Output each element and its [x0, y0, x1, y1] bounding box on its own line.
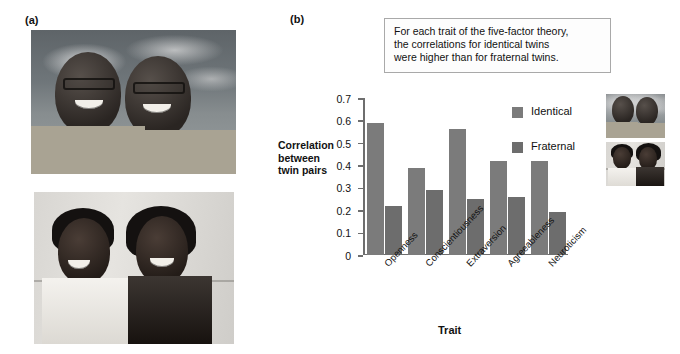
legend-thumbnail-identical [606, 94, 665, 138]
y-tick-4: 0.4 [358, 165, 363, 167]
x-axis-title: Trait [438, 324, 461, 336]
y-tick-label-7: 0.7 [336, 93, 351, 105]
y-tick-3: 0.3 [358, 188, 363, 190]
thumb-identical-head-b [636, 97, 658, 125]
legend-swatch-fraternal [512, 142, 523, 153]
thumb-identical-shirt-b [634, 123, 665, 138]
y-tick-label-2: 0.2 [336, 205, 351, 217]
plot-area: 00.10.20.30.40.50.60.7 OpennessConscient… [363, 98, 568, 255]
y-tick-label-6: 0.6 [336, 115, 351, 127]
twin-a-head [55, 52, 121, 134]
y-tick-7: 0.7 [358, 98, 363, 100]
legend-swatch-identical [512, 107, 523, 118]
caption-line-3: were higher than for fraternal twins. [394, 51, 602, 64]
fraternal-twins-photo [34, 192, 234, 344]
chart-caption-box: For each trait of the five-factor theory… [384, 18, 611, 73]
caption-line-1: For each trait of the five-factor theory… [394, 25, 602, 38]
y-tick-label-0: 0 [345, 250, 351, 262]
twin-a-glasses-icon [63, 78, 115, 90]
identical-twins-photo [31, 30, 236, 174]
fraternal-female-top [128, 276, 212, 344]
y-tick-0: 0 [358, 255, 363, 257]
caption-line-2: the correlations for identical twins [394, 38, 602, 51]
legend-label-fraternal: Fraternal [531, 140, 575, 152]
twin-correlation-chart: For each trait of the five-factor theory… [276, 6, 680, 354]
y-tick-5: 0.5 [358, 143, 363, 145]
bar-identical-openness [367, 123, 384, 255]
fraternal-male-head [58, 218, 110, 284]
legend-thumbnail-fraternal [606, 142, 665, 186]
y-tick-label-5: 0.5 [336, 138, 351, 150]
fraternal-female-head [136, 216, 188, 284]
y-tick-6: 0.6 [358, 120, 363, 122]
thumb-fraternal-shirt [608, 168, 636, 186]
twin-b-glasses-icon [133, 82, 185, 94]
panel-a-label: (a) [25, 14, 38, 26]
y-tick-2: 0.2 [358, 210, 363, 212]
thumb-fraternal-head-a [613, 147, 631, 169]
twin-study-figure: (a) (b) For each trait of the five-facto… [0, 0, 680, 354]
y-tick-label-3: 0.3 [336, 182, 351, 194]
thumb-fraternal-top [636, 167, 664, 186]
thumb-identical-head-a [612, 96, 634, 124]
fraternal-male-shirt [42, 278, 128, 344]
legend-label-identical: Identical [531, 105, 572, 117]
y-axis-line [363, 98, 365, 255]
y-tick-label-4: 0.4 [336, 160, 351, 172]
twin-b-shirt [117, 130, 236, 174]
y-tick-1: 0.1 [358, 233, 363, 235]
y-tick-label-1: 0.1 [336, 227, 351, 239]
